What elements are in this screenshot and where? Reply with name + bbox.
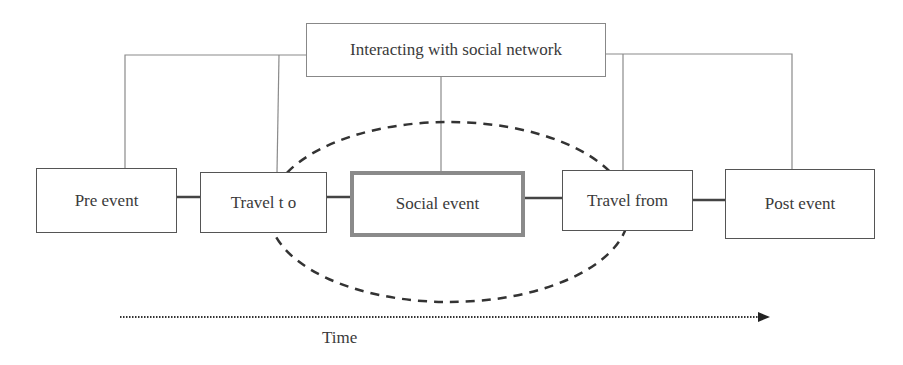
connector-hub-travel-to [277, 55, 279, 172]
stage-travel-from: Travel from [562, 170, 693, 231]
stage-label: Travel t o [231, 193, 297, 213]
stage-travel-to: Travel t o [200, 172, 327, 233]
stage-social-event: Social event [350, 171, 525, 237]
stage-pre-event: Pre event [36, 168, 177, 233]
time-axis-label: Time [322, 328, 357, 348]
connector-hub-right [605, 54, 792, 169]
hub-label: Interacting with social network [350, 40, 562, 60]
stage-label: Post event [765, 194, 835, 214]
stage-label: Pre event [75, 191, 139, 211]
stage-label: Travel from [587, 191, 668, 211]
stage-post-event: Post event [725, 169, 875, 239]
stage-label: Social event [396, 194, 480, 214]
time-arrowhead-icon [758, 312, 770, 322]
hub-box: Interacting with social network [306, 23, 606, 77]
